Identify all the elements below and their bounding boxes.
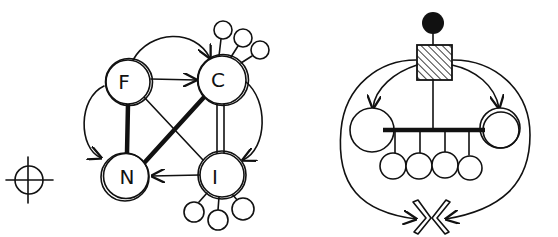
hanging-nodes (380, 132, 482, 180)
hatched-box (417, 45, 452, 80)
node-c: C (198, 55, 249, 106)
edge-f-c-curve (133, 36, 210, 60)
node-f: F (106, 59, 153, 106)
top-dot (422, 12, 444, 34)
node-c-label: C (211, 68, 225, 92)
edge-i-n (152, 175, 200, 176)
edge-c-i-double (217, 104, 224, 153)
diagram-canvas: F C N I (0, 0, 558, 237)
edge-box-right (452, 65, 499, 108)
edge-f-n-thick (127, 104, 128, 153)
edge-box-left (373, 65, 417, 108)
node-n: N (101, 153, 149, 201)
node-i: I (198, 151, 246, 199)
edge-c-n-thick (145, 95, 206, 162)
edge-c-i-curve (243, 82, 262, 160)
edge-f-c (151, 79, 196, 80)
node-n-label: N (120, 165, 135, 189)
converging-arrows-icon (413, 200, 450, 234)
left-graph: F C N I (84, 21, 269, 230)
edge-f-n-curve (84, 86, 104, 158)
right-diagram (340, 12, 530, 234)
node-f-label: F (118, 70, 130, 94)
node-i-label: I (212, 165, 218, 189)
side-node-right (480, 108, 520, 148)
crosshair-icon (6, 157, 53, 203)
